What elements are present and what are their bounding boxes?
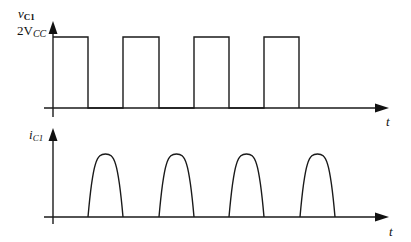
waveform-diagram: vC1 2VCC t iC1 t [0, 0, 411, 242]
voltage-x-axis-arrow-icon [375, 104, 389, 113]
voltage-y-axis-arrow-icon [49, 21, 58, 34]
voltage-panel: vC1 2VCC t [17, 6, 390, 129]
voltage-y-label: vC1 [18, 6, 35, 22]
current-waveform [88, 154, 335, 217]
current-panel: iC1 t [29, 127, 393, 239]
voltage-x-label: t [386, 114, 390, 129]
current-y-axis-arrow-icon [49, 128, 58, 141]
current-pulse [300, 154, 335, 217]
current-y-label: iC1 [29, 127, 43, 143]
voltage-waveform [53, 37, 299, 108]
voltage-level-label: 2VCC [17, 23, 47, 39]
current-x-label: t [389, 224, 393, 239]
current-pulse [159, 154, 194, 217]
current-pulse [229, 154, 264, 217]
current-x-axis-arrow-icon [375, 213, 389, 222]
current-pulse [88, 154, 123, 217]
